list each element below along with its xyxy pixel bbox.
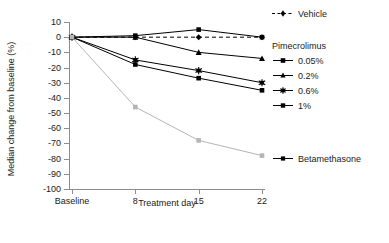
legend-label-betamethasone: Betamethasone [298, 154, 361, 164]
y-tick-label: 10 [51, 17, 61, 27]
data-point [196, 27, 201, 32]
series-betamethasone [70, 35, 265, 158]
x-tick [199, 189, 200, 194]
series-layer [69, 22, 265, 189]
data-point [70, 35, 75, 40]
legend-group-title-label: Pimecrolimus [272, 41, 326, 51]
y-tick-label: -70 [48, 138, 61, 148]
legend-group-title: Pimecrolimus [272, 34, 389, 53]
y-tick-label: -80 [48, 154, 61, 164]
legend-label-dose-06: 0.6% [298, 86, 319, 96]
legend-label-dose-1: 1% [298, 101, 311, 111]
series-0-6 [69, 34, 265, 87]
y-tick-label: 0 [56, 32, 61, 42]
data-point [196, 34, 202, 40]
legend-item-dose-02[interactable]: 0.2% [272, 68, 389, 83]
y-tick-label: -40 [48, 93, 61, 103]
data-point [133, 105, 138, 110]
dose-005-line-icon [272, 55, 294, 66]
data-point [196, 138, 201, 143]
data-point [260, 153, 265, 158]
series-0-2 [69, 34, 265, 61]
legend-label-dose-02: 0.2% [298, 71, 319, 81]
dose-06-line-icon [272, 85, 294, 96]
y-tick-label: -50 [48, 108, 61, 118]
plot-area: 100-10-20-30-40-50-60-70-80-90-100 Basel… [69, 22, 265, 189]
dose-1-line-icon [272, 100, 294, 111]
y-tick-label: -90 [48, 169, 61, 179]
legend: Vehicle Pimecrolimus 0.05% 0.2% [272, 6, 389, 113]
data-point [260, 88, 265, 93]
x-tick [262, 189, 263, 194]
series-line [72, 37, 262, 83]
legend-label-dose-005: 0.05% [298, 56, 324, 66]
betamethasone-line-icon [272, 153, 294, 164]
y-tick-label: -100 [43, 184, 61, 194]
y-tick: -100 [64, 189, 69, 190]
x-tick [135, 189, 136, 194]
y-tick-label: -30 [48, 78, 61, 88]
y-tick-label: -20 [48, 63, 61, 73]
legend-spacer [272, 21, 389, 34]
chart-figure: Median change from baseline (%) 100-10-2… [0, 0, 389, 243]
x-axis-title: Treatment day [69, 198, 265, 208]
legend-item-dose-1[interactable]: 1% [272, 98, 389, 113]
series-1 [70, 35, 265, 93]
series-line [72, 30, 262, 38]
y-tick-label: -10 [48, 47, 61, 57]
legend-item-betamethasone[interactable]: Betamethasone [272, 151, 389, 166]
series-line [72, 37, 262, 155]
legend-item-dose-06[interactable]: 0.6% [272, 83, 389, 98]
x-axis-line [69, 189, 265, 190]
data-point [260, 35, 265, 40]
y-axis-title: Median change from baseline (%) [6, 24, 16, 194]
legend-row-betamethasone: Betamethasone [272, 151, 389, 166]
dose-02-line-icon [272, 70, 294, 81]
legend-item-vehicle[interactable]: Vehicle [272, 6, 389, 21]
legend-item-dose-005[interactable]: 0.05% [272, 53, 389, 68]
data-point [196, 76, 201, 81]
data-point [133, 62, 138, 67]
vehicle-line-icon [272, 8, 294, 19]
x-tick [72, 189, 73, 194]
y-tick-label: -60 [48, 123, 61, 133]
legend-label-vehicle: Vehicle [298, 9, 327, 19]
